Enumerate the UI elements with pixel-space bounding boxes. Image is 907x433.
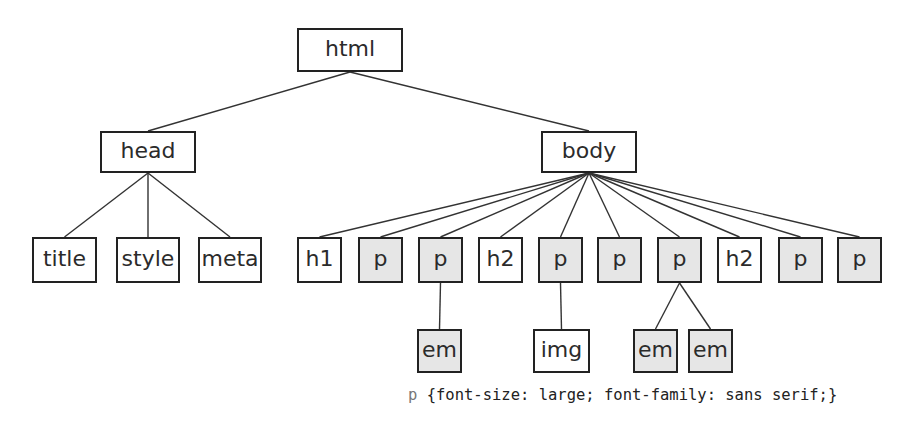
edge-p5-em2 (656, 283, 680, 329)
tree-node-p4: p (597, 237, 642, 283)
edge-html-head (148, 72, 350, 131)
edge-html-body (350, 72, 589, 131)
tree-node-p2: p (418, 237, 463, 283)
tree-node-em2: em (633, 329, 678, 373)
tree-node-html: html (297, 28, 403, 72)
edge-head-title (65, 173, 149, 237)
tree-node-meta: meta (198, 237, 262, 283)
edge-body-p1 (381, 173, 590, 237)
tree-node-h2b: h2 (717, 237, 762, 283)
css-rule: p {font-size: large; font-family: sans s… (408, 386, 837, 404)
tree-node-h2a: h2 (478, 237, 523, 283)
tree-node-head: head (100, 131, 196, 173)
tree-node-em3: em (688, 329, 733, 373)
edge-p3-img (561, 283, 562, 329)
tree-node-em1: em (417, 329, 462, 373)
edge-p5-em3 (680, 283, 711, 329)
tree-node-body: body (541, 131, 637, 173)
tree-node-p3: p (538, 237, 583, 283)
edge-p2-em1 (440, 283, 441, 329)
edge-head-meta (148, 173, 230, 237)
edge-body-p6 (589, 173, 801, 237)
tree-node-h1: h1 (297, 237, 342, 283)
edge-body-h1 (320, 173, 590, 237)
edge-body-p7 (589, 173, 860, 237)
tree-node-title: title (32, 237, 97, 283)
tree-node-p7: p (837, 237, 882, 283)
tree-node-p6: p (778, 237, 823, 283)
tree-node-img: img (533, 329, 590, 373)
css-declarations: {font-size: large; font-family: sans ser… (417, 386, 837, 404)
tree-node-style: style (116, 237, 180, 283)
edge-body-h2b (589, 173, 740, 237)
dom-tree-diagram: htmlheadbodytitlestylemetah1pph2ppph2ppe… (0, 0, 907, 433)
tree-node-p1: p (358, 237, 403, 283)
css-selector: p (408, 386, 417, 404)
tree-node-p5: p (657, 237, 702, 283)
edge-body-p4 (589, 173, 620, 237)
